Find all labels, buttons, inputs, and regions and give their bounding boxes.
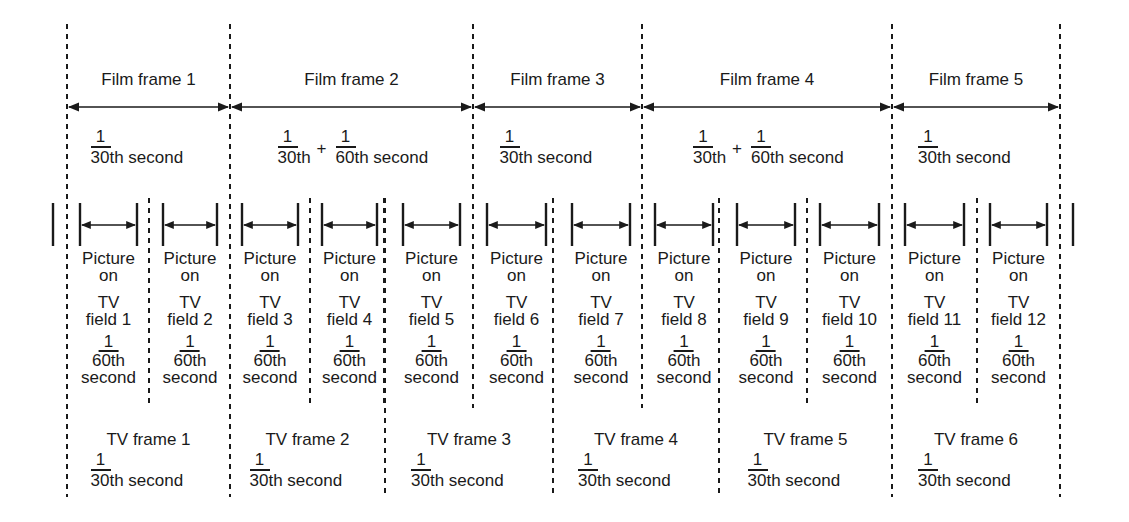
field-number: field 1 (81, 311, 136, 328)
tv-text: TV (243, 294, 298, 311)
field-fraction-unit: second (739, 369, 794, 386)
picture-text: Picture (739, 250, 794, 267)
numerator-wrap: 1 (322, 328, 377, 352)
numerator-wrap: 1 (404, 328, 459, 352)
field-fraction-denominator: 60th (739, 352, 794, 369)
tv-frame-label: TV frame 2 (265, 430, 349, 449)
field-fraction-numerator: 1 (180, 333, 200, 352)
tv-text: TV (322, 294, 377, 311)
film-frame-label: Film frame 5 (929, 70, 1023, 89)
numerator-wrap: 1 (657, 328, 712, 352)
on-text: on (243, 267, 298, 284)
tv-text: TV (739, 294, 794, 311)
fraction-denominator: 30th (693, 148, 726, 168)
fraction-denominator: 30th second (748, 471, 841, 491)
tv-field-label: PictureonTVfield 12160thsecond (991, 250, 1046, 386)
tv-frame-duration: 130th second (918, 451, 1011, 491)
fraction-denominator: 30th second (91, 471, 184, 491)
field-fraction-numerator: 1 (260, 333, 280, 352)
numerator-wrap: 1 (822, 328, 877, 352)
fraction-numerator: 1 (250, 451, 270, 471)
fraction-numerator: 1 (693, 128, 713, 148)
tv-field-label: PictureonTVfield 9160thsecond (739, 250, 794, 386)
tv-field-label: PictureonTVfield 8160thsecond (657, 250, 712, 386)
plus-sign: + (732, 139, 742, 158)
fraction-numerator: 1 (278, 128, 298, 148)
numerator-wrap: 1 (163, 328, 218, 352)
field-fraction-numerator: 1 (591, 333, 611, 352)
field-fraction-denominator: 60th (574, 352, 629, 369)
tv-frame-duration: 130th second (91, 451, 184, 491)
tv-field-label: PictureonTVfield 2160thsecond (163, 250, 218, 386)
fraction-numerator: 1 (751, 128, 771, 148)
field-fraction-numerator: 1 (839, 333, 859, 352)
picture-text: Picture (907, 250, 962, 267)
field-fraction-numerator: 1 (756, 333, 776, 352)
tv-text: TV (81, 294, 136, 311)
film-duration-fraction: 130th second (918, 128, 1011, 168)
fraction-numerator: 1 (336, 128, 356, 148)
field-fraction-unit: second (404, 369, 459, 386)
on-text: on (322, 267, 377, 284)
field-number: field 3 (243, 311, 298, 328)
numerator-wrap: 1 (739, 328, 794, 352)
pulldown-diagram: Film frame 1130th secondFilm frame 2130t… (0, 0, 1129, 522)
fraction-numerator: 1 (500, 128, 520, 148)
field-fraction-numerator: 1 (339, 333, 359, 352)
field-number: field 4 (322, 311, 377, 328)
tv-frame-label: TV frame 1 (106, 430, 190, 449)
field-fraction-denominator: 60th (907, 352, 962, 369)
on-text: on (81, 267, 136, 284)
tv-text: TV (822, 294, 877, 311)
on-text: on (657, 267, 712, 284)
film-duration-fraction-b: 160th second (751, 128, 844, 168)
field-fraction-denominator: 60th (657, 352, 712, 369)
on-text: on (907, 267, 962, 284)
field-number: field 5 (404, 311, 459, 328)
tv-text: TV (657, 294, 712, 311)
tv-frame-label: TV frame 6 (934, 430, 1018, 449)
field-number: field 12 (991, 311, 1046, 328)
field-fraction-numerator: 1 (421, 333, 441, 352)
tv-field-label: PictureonTVfield 5160thsecond (404, 250, 459, 386)
picture-text: Picture (657, 250, 712, 267)
field-fraction-unit: second (322, 369, 377, 386)
film-frame-label: Film frame 3 (510, 70, 604, 89)
fraction-denominator: 30th second (91, 148, 184, 168)
field-fraction-unit: second (657, 369, 712, 386)
numerator-wrap: 1 (489, 328, 544, 352)
field-fraction-numerator: 1 (1008, 333, 1028, 352)
field-fraction-numerator: 1 (674, 333, 694, 352)
field-fraction-unit: second (574, 369, 629, 386)
field-fraction-numerator: 1 (98, 333, 118, 352)
field-fraction-denominator: 60th (404, 352, 459, 369)
film-duration-fraction: 130th second (91, 128, 184, 168)
field-fraction-denominator: 60th (322, 352, 377, 369)
field-fraction-unit: second (489, 369, 544, 386)
picture-text: Picture (81, 250, 136, 267)
field-number: field 2 (163, 311, 218, 328)
tv-field-label: PictureonTVfield 11160thsecond (907, 250, 962, 386)
on-text: on (991, 267, 1046, 284)
field-number: field 8 (657, 311, 712, 328)
field-fraction-denominator: 60th (81, 352, 136, 369)
field-fraction-unit: second (907, 369, 962, 386)
numerator-wrap: 1 (81, 328, 136, 352)
tv-frame-duration: 130th second (748, 451, 841, 491)
film-duration-fraction: 130th second (500, 128, 593, 168)
field-fraction-denominator: 60th (243, 352, 298, 369)
fraction-denominator: 60th second (336, 148, 429, 168)
film-duration-fraction-a: 130th (278, 128, 311, 168)
film-frame-label: Film frame 1 (101, 70, 195, 89)
tv-field-label: PictureonTVfield 3160thsecond (243, 250, 298, 386)
film-frame-label: Film frame 4 (720, 70, 814, 89)
fraction-denominator: 30th second (500, 148, 593, 168)
field-fraction-unit: second (243, 369, 298, 386)
tv-text: TV (574, 294, 629, 311)
field-number: field 11 (907, 311, 962, 328)
picture-text: Picture (991, 250, 1046, 267)
fraction-numerator: 1 (918, 451, 938, 471)
tv-frame-label: TV frame 3 (427, 430, 511, 449)
film-duration-fraction-b: 160th second (336, 128, 429, 168)
tv-field-label: PictureonTVfield 10160thsecond (822, 250, 877, 386)
